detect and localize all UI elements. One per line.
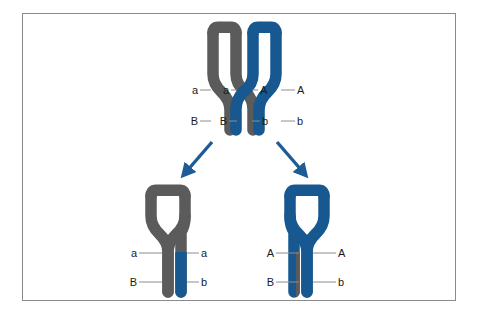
label-top-B-inner: B [211,116,227,127]
right-product-lower-left-limb [290,216,294,292]
label-top-b-inner: b [262,116,278,127]
label-top-a-inner: a [213,85,229,96]
label-left-product-a-right: a [201,248,217,259]
inner-gray-chromatid-upper [236,33,245,91]
label-top-b-outer: b [297,116,313,127]
label-right-product-A-right: A [338,248,354,259]
left-product-top-bow [151,190,185,196]
inner-blue-chromatid-upper [245,33,254,91]
crossing-over-diagram [0,0,487,318]
label-right-product-A-left: A [258,248,274,259]
transition-arrows [186,142,303,172]
arrow-to-right-product [277,142,303,172]
recombinant-chromosome-right [290,190,324,292]
arrow-to-left-product [186,142,212,172]
blue-pair-top-bow [253,27,276,33]
label-left-product-a-left: a [121,248,137,259]
label-right-product-B-left: B [258,277,274,288]
recombinant-chromosome-left [151,190,185,292]
figure-root: a a A A B B b b a a B b A A B b [0,0,487,318]
label-top-A-outer: A [297,85,313,96]
gray-pair-top-bow [213,27,236,33]
label-top-a-outer: a [182,85,198,96]
label-top-B-outer: B [182,116,198,127]
label-left-product-B-left: B [121,277,137,288]
label-left-product-b-right: b [201,277,217,288]
label-top-A-inner: A [260,85,276,96]
inner-blue-chromatid-lower [236,91,244,130]
label-right-product-b-right: b [338,277,354,288]
right-product-top-bow [290,190,324,196]
